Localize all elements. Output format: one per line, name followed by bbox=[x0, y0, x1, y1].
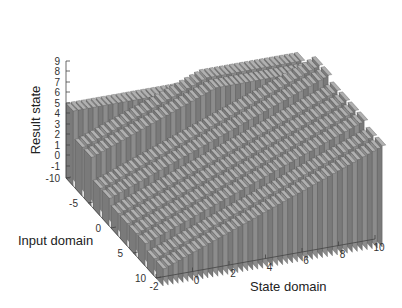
x-tick-label: 8 bbox=[340, 249, 346, 260]
y-axis-title: Input domain bbox=[18, 233, 93, 248]
x-tick-label: 10 bbox=[373, 242, 385, 253]
y-tick-label: 0 bbox=[95, 223, 101, 234]
z-tick-label: -10 bbox=[46, 173, 61, 184]
y-tick-label: 5 bbox=[117, 248, 123, 259]
x-axis-title: State domain bbox=[250, 279, 327, 294]
x-tick-label: 6 bbox=[303, 255, 309, 266]
x-tick-label: -2 bbox=[150, 281, 159, 292]
surface-slat bbox=[75, 139, 82, 196]
z-tick-label: 4 bbox=[54, 108, 60, 119]
z-tick-label: 6 bbox=[54, 87, 60, 98]
surface-slat bbox=[84, 149, 91, 206]
y-tick-label: 10 bbox=[135, 273, 147, 284]
z-axis-title: Result state bbox=[28, 86, 43, 155]
x-tick-label: 4 bbox=[267, 262, 273, 273]
z-tick-label: -1 bbox=[51, 161, 60, 172]
z-tick-label: 2 bbox=[54, 129, 60, 140]
surface-ribbons bbox=[66, 52, 386, 286]
x-tick-label: 2 bbox=[230, 268, 236, 279]
x-tick-label: 0 bbox=[194, 275, 200, 286]
surface-slat bbox=[66, 103, 73, 186]
y-tick-label: -5 bbox=[69, 198, 78, 209]
z-tick-label: 8 bbox=[54, 66, 60, 77]
surface-plot: 9876543210-1-10-50510-20246810 Result st… bbox=[0, 0, 402, 308]
z-tick-label: 0 bbox=[54, 150, 60, 161]
